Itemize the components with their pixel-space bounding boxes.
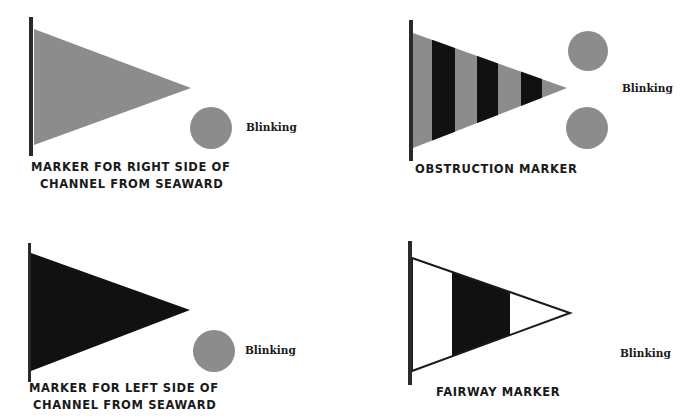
gray-light-icon bbox=[568, 31, 608, 71]
flag-pole bbox=[28, 243, 31, 382]
obstruction-marker bbox=[409, 20, 608, 161]
blinking-label: Blinking bbox=[620, 347, 671, 359]
caption-line: MARKER FOR LEFT SIDE OF bbox=[29, 380, 219, 397]
caption-fairway: FAIRWAY MARKER bbox=[436, 384, 560, 401]
flag-pole bbox=[408, 241, 412, 385]
black-stripe bbox=[432, 20, 455, 160]
black-pennant-flag bbox=[31, 253, 190, 371]
left-side-marker bbox=[28, 243, 235, 382]
black-stripe bbox=[521, 20, 542, 160]
marker-diagram bbox=[0, 0, 687, 418]
blinking-label: Blinking bbox=[622, 82, 673, 94]
caption-line: CHANNEL FROM SEAWARD bbox=[29, 397, 219, 414]
gray-pennant-flag bbox=[34, 29, 191, 145]
caption-line: MARKER FOR RIGHT SIDE OF bbox=[31, 159, 230, 176]
fairway-marker bbox=[408, 241, 570, 385]
caption-left-side: MARKER FOR LEFT SIDE OF CHANNEL FROM SEA… bbox=[29, 380, 219, 414]
right-side-marker bbox=[29, 17, 232, 156]
caption-line: FAIRWAY MARKER bbox=[436, 384, 560, 401]
caption-line: CHANNEL FROM SEAWARD bbox=[31, 176, 230, 193]
blinking-label: Blinking bbox=[245, 344, 296, 356]
black-stripe bbox=[477, 20, 498, 160]
black-band bbox=[452, 250, 510, 380]
gray-light-icon bbox=[566, 107, 608, 149]
gray-light-icon bbox=[193, 330, 235, 372]
gray-light-icon bbox=[190, 107, 232, 149]
flag-pole bbox=[409, 20, 413, 161]
flag-pole bbox=[29, 17, 33, 156]
caption-obstruction: OBSTRUCTION MARKER bbox=[415, 161, 577, 178]
caption-right-side: MARKER FOR RIGHT SIDE OF CHANNEL FROM SE… bbox=[31, 159, 230, 193]
blinking-label: Blinking bbox=[246, 121, 297, 133]
caption-line: OBSTRUCTION MARKER bbox=[415, 161, 577, 178]
